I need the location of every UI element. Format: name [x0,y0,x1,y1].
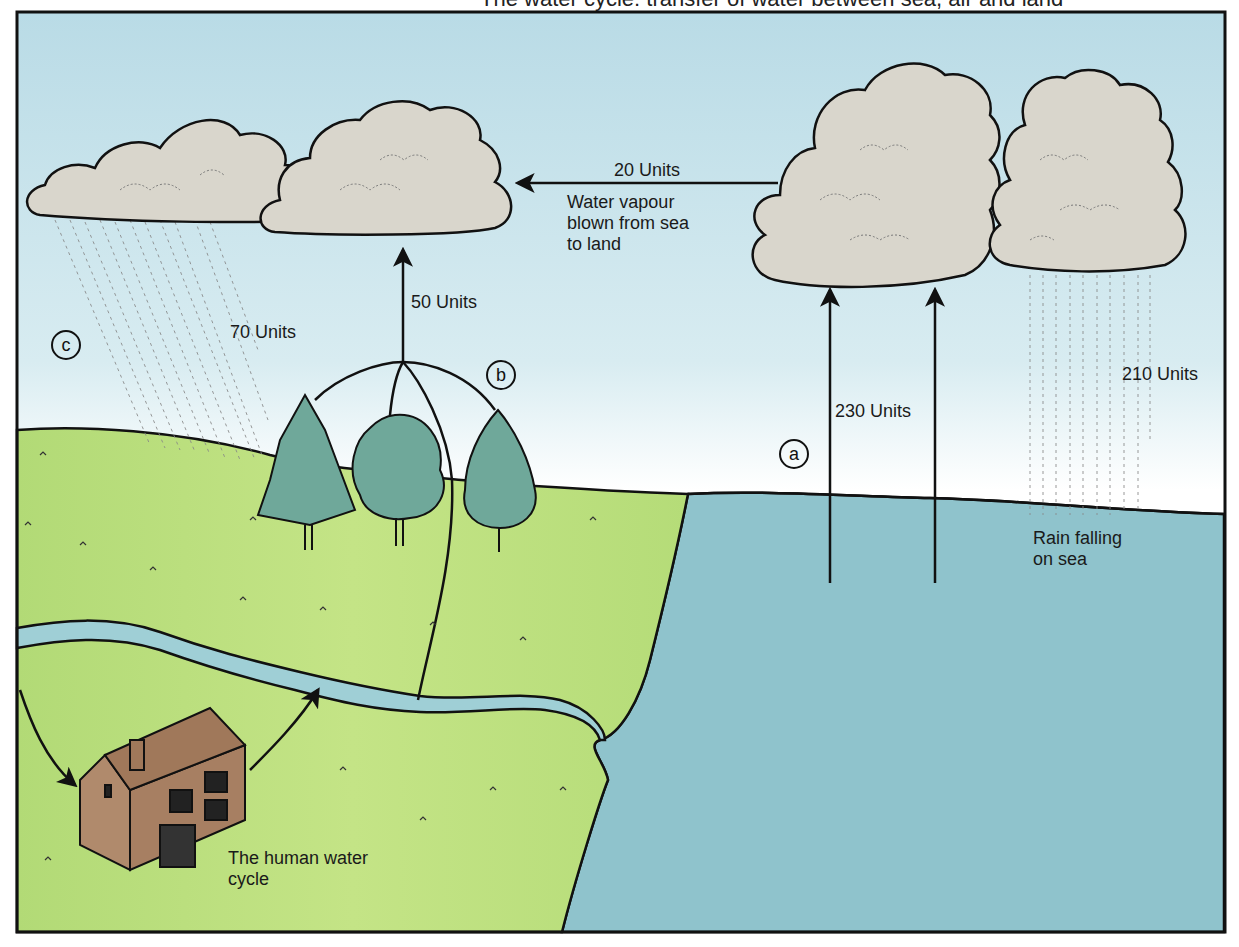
label-70-units: 70 Units [230,322,296,343]
label-vapour-description: Water vapour blown from sea to land [567,192,689,255]
marker-a: a [779,439,809,469]
diagram-canvas [0,0,1239,947]
water-cycle-diagram: The water cycle: transfer of water betwe… [0,0,1239,947]
label-human-water-cycle: The human water cycle [228,848,368,890]
label-50-units: 50 Units [411,292,477,313]
label-210-units: 210 Units [1122,364,1198,385]
marker-c: c [51,330,81,360]
label-230-units: 230 Units [835,401,911,422]
label-20-units: 20 Units [614,160,680,181]
label-rain-on-sea: Rain falling on sea [1033,528,1122,570]
marker-b: b [486,360,516,390]
